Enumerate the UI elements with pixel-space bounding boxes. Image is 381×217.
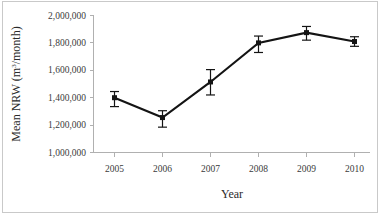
x-tick-label: 2008 xyxy=(249,164,268,174)
x-tick-label: 2009 xyxy=(297,164,316,174)
data-point-marker xyxy=(112,95,117,100)
data-point-marker xyxy=(256,40,261,45)
x-tick-labels: 2005 2006 2007 2008 2009 2010 xyxy=(105,164,364,174)
data-point-marker xyxy=(208,79,213,84)
line-chart: 2,000,000 1,800,000 1,600,000 1,400,000 … xyxy=(0,0,381,217)
y-tick-label: 1,200,000 xyxy=(48,120,86,130)
x-tick-label: 2005 xyxy=(105,164,124,174)
data-point-marker xyxy=(352,39,357,44)
data-point-marker xyxy=(304,30,309,35)
chart-figure: 2,000,000 1,800,000 1,600,000 1,400,000 … xyxy=(0,0,381,217)
y-tick-label: 1,400,000 xyxy=(48,93,86,103)
y-tick-label: 1,800,000 xyxy=(48,38,86,48)
y-axis-title-tail: /month) xyxy=(9,26,23,64)
series-line xyxy=(115,33,355,118)
y-axis-ticks xyxy=(90,16,94,153)
y-axis-title-base: Mean NRW (m xyxy=(9,67,23,141)
x-axis-title: Year xyxy=(221,187,243,201)
y-tick-label: 1,000,000 xyxy=(48,148,86,158)
y-axis-title: Mean NRW (m3/month) xyxy=(9,26,23,141)
y-tick-labels: 2,000,000 1,800,000 1,600,000 1,400,000 … xyxy=(48,11,86,158)
y-tick-label: 2,000,000 xyxy=(48,11,86,21)
x-tick-label: 2010 xyxy=(345,164,364,174)
data-markers xyxy=(112,30,357,120)
x-tick-label: 2006 xyxy=(153,164,172,174)
y-tick-label: 1,600,000 xyxy=(48,65,86,75)
x-tick-label: 2007 xyxy=(201,164,220,174)
x-axis-ticks xyxy=(115,153,355,158)
data-point-marker xyxy=(160,115,165,120)
